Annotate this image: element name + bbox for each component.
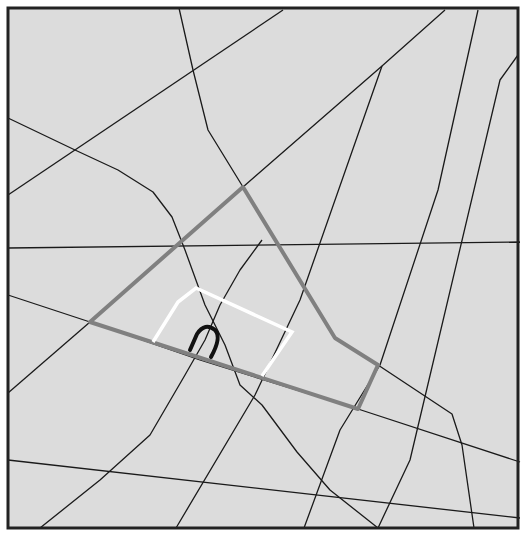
- map-view[interactable]: [0, 0, 525, 540]
- map-canvas[interactable]: [0, 0, 525, 540]
- map-background: [8, 8, 518, 528]
